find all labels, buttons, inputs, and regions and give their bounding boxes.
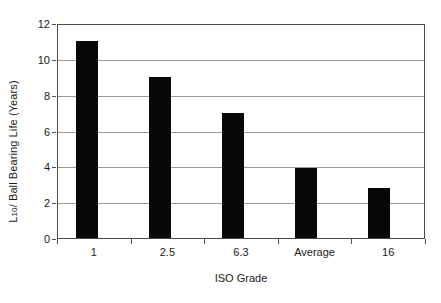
bar-slot	[351, 25, 424, 238]
y-axis-tick-mark	[52, 132, 56, 133]
y-axis-title-prefix: L	[7, 216, 19, 222]
bar-chart-figure: L10/ Ball Bearing Life (Years) 024681012…	[0, 0, 441, 303]
y-axis-title: L10/ Ball Bearing Life (Years)	[0, 0, 26, 303]
y-axis-tick-label: 10	[26, 54, 50, 66]
x-axis-tick-mark	[57, 239, 58, 244]
x-axis-tick-label: 1	[91, 246, 97, 258]
bar[interactable]	[149, 77, 171, 238]
y-axis-tick-mark	[52, 60, 56, 61]
x-axis-tick-mark	[278, 239, 279, 244]
y-axis-tick-label: 12	[26, 18, 50, 30]
y-axis-tick-mark	[52, 239, 56, 240]
y-axis-tick-mark	[52, 167, 56, 168]
x-axis-tick-labels: 12.56.3Average16	[57, 246, 425, 264]
x-axis-tick-mark	[425, 239, 426, 244]
y-axis-tick-mark	[52, 96, 56, 97]
y-axis-tick-labels: 024681012	[26, 24, 50, 239]
y-axis-tick-label: 6	[26, 126, 50, 138]
y-axis-tick-label: 0	[26, 233, 50, 245]
bar[interactable]	[368, 188, 390, 238]
bar-slot	[131, 25, 204, 238]
y-axis-tick-mark	[52, 24, 56, 25]
y-axis-tick-label: 8	[26, 90, 50, 102]
x-axis-title: ISO Grade	[57, 272, 425, 284]
x-axis-tick-label: 16	[382, 246, 394, 258]
bar-slot	[58, 25, 131, 238]
x-axis-tick-mark	[131, 239, 132, 244]
x-axis-tick-mark	[351, 239, 352, 244]
x-axis-tick-marks	[57, 239, 425, 244]
bar[interactable]	[295, 168, 317, 238]
bars-layer	[58, 25, 424, 238]
y-axis-tick-label: 2	[26, 197, 50, 209]
y-axis-title-suffix: / Ball Bearing Life (Years)	[7, 80, 19, 207]
bar[interactable]	[222, 113, 244, 238]
y-axis-tick-mark	[52, 203, 56, 204]
bar-slot	[278, 25, 351, 238]
plot-area	[57, 24, 425, 239]
x-axis-tick-mark	[204, 239, 205, 244]
bar[interactable]	[76, 41, 98, 238]
x-axis-tick-label: Average	[294, 246, 335, 258]
x-axis-tick-label: 2.5	[160, 246, 175, 258]
y-axis-tick-label: 4	[26, 161, 50, 173]
bar-slot	[204, 25, 277, 238]
x-axis-tick-label: 6.3	[233, 246, 248, 258]
